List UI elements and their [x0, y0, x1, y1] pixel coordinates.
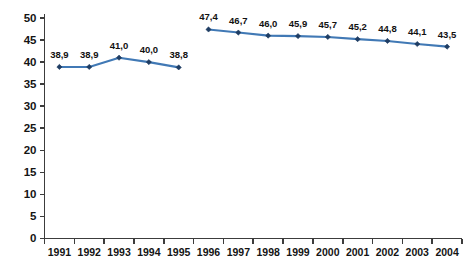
data-point-marker — [146, 60, 151, 65]
x-axis-tick-label: 1992 — [78, 246, 102, 258]
data-point-label: 41,0 — [110, 40, 129, 51]
data-point-marker — [266, 33, 271, 38]
y-axis-tick-label: 0 — [30, 232, 36, 244]
data-point-marker — [355, 37, 360, 42]
x-axis-tick-label: 1998 — [256, 246, 280, 258]
data-point-label: 38,9 — [80, 49, 99, 60]
x-axis-tick-label: 2004 — [435, 246, 459, 258]
data-point-marker — [57, 64, 62, 69]
x-axis-tick-label: 1991 — [48, 246, 72, 258]
y-axis-tick-label: 30 — [24, 100, 37, 112]
data-point-marker — [176, 65, 181, 70]
y-axis-tick-label: 15 — [24, 166, 37, 178]
y-axis-tick-label: 10 — [24, 188, 37, 200]
line-chart: 05101520253035404550 1991199219931994199… — [0, 0, 474, 274]
data-point-marker — [87, 64, 92, 69]
x-axis-tick-label: 2003 — [406, 246, 430, 258]
data-label-group: 38,938,941,040,038,847,446,746,045,945,7… — [50, 11, 457, 60]
data-point-marker — [325, 34, 330, 39]
x-axis-tick-label: 1993 — [107, 246, 131, 258]
y-axis-tick-label: 20 — [24, 144, 37, 156]
y-axis-tick-label: 40 — [24, 56, 37, 68]
x-axis-tick-label: 1996 — [197, 246, 221, 258]
data-point-label: 46,7 — [229, 15, 248, 26]
data-point-marker — [116, 55, 121, 60]
x-axis-tick-label: 2002 — [376, 246, 400, 258]
data-point-marker — [415, 41, 420, 46]
data-point-marker — [206, 27, 211, 32]
data-point-label: 44,1 — [408, 26, 427, 37]
y-axis-tick-label: 45 — [24, 34, 37, 46]
x-axis-tick-label: 1999 — [286, 246, 310, 258]
data-point-label: 44,8 — [378, 23, 397, 34]
chart-plot-area: 05101520253035404550 1991199219931994199… — [0, 0, 474, 274]
y-axis-tick-label: 35 — [24, 78, 37, 90]
y-axis-tick-label: 50 — [24, 12, 37, 24]
y-axis: 05101520253035404550 — [24, 12, 45, 245]
x-axis: 1991199219931994199519961997199819992000… — [45, 239, 463, 258]
data-point-marker — [295, 33, 300, 38]
data-point-marker — [385, 38, 390, 43]
data-point-label: 38,8 — [169, 49, 188, 60]
y-axis-tick-label: 5 — [30, 210, 37, 222]
data-point-label: 38,9 — [50, 49, 69, 60]
x-axis-tick-label: 2000 — [316, 246, 340, 258]
data-point-marker — [236, 30, 241, 35]
x-axis-tick-label: 1995 — [167, 246, 191, 258]
data-point-label: 40,0 — [140, 44, 159, 55]
x-axis-tick-label: 1997 — [227, 246, 251, 258]
x-axis-tick-label: 2001 — [346, 246, 370, 258]
data-point-marker — [444, 44, 449, 49]
data-point-label: 43,5 — [438, 29, 457, 40]
data-point-label: 47,4 — [199, 11, 218, 22]
data-point-label: 45,7 — [319, 19, 338, 30]
x-axis-tick-label: 1994 — [137, 246, 161, 258]
data-point-label: 45,2 — [348, 21, 367, 32]
data-point-label: 46,0 — [259, 18, 278, 29]
data-point-label: 45,9 — [289, 18, 308, 29]
y-axis-tick-label: 25 — [24, 122, 37, 134]
